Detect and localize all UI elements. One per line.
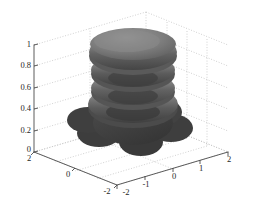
z-tick-label-0-6: 0.6 — [9, 83, 31, 92]
y-tick-label-neg-2: -2 — [99, 187, 115, 196]
z-tick-label-0-4: 0.4 — [9, 104, 31, 113]
x-tick-label-0: 0 — [167, 172, 181, 181]
y-tick-label-2: 2 — [22, 154, 36, 163]
y-axis-line — [34, 152, 117, 185]
z-tick-label-0-2: 0.2 — [9, 126, 31, 135]
surface-plot-svg — [0, 0, 253, 208]
surface-object — [67, 28, 193, 156]
x-tick-label-1: 1 — [194, 164, 208, 173]
z-tick-label-0-8: 0.8 — [9, 61, 31, 70]
x-tick-label-neg-2: -2 — [118, 188, 134, 197]
z-tick-label-1: 1 — [15, 40, 31, 49]
figure-canvas: 1 0.8 0.6 0.4 0.2 0 2 0 -2 -2 -1 0 1 2 — [0, 0, 253, 208]
y-tick-label-0: 0 — [61, 170, 75, 179]
surface-top-cap — [90, 28, 176, 60]
x-tick-label-2: 2 — [222, 155, 236, 164]
x-tick-label-neg-1: -1 — [138, 180, 154, 189]
